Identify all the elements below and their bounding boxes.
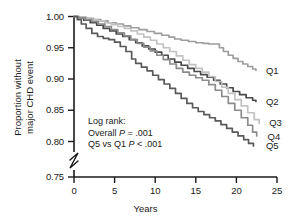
y-axis-tick-label: 1.00 (26, 11, 64, 22)
annotation-line-3: Q5 vs Q1 P < .001 (88, 139, 162, 151)
series-label-q5: Q5 (266, 140, 279, 151)
x-axis-tick-label: 0 (54, 185, 94, 196)
axis-break-marker (70, 153, 78, 168)
x-axis-tick-label: 25 (257, 185, 291, 196)
annotation-line-3-pre: Q5 vs Q1 (88, 139, 129, 149)
annotation-line-2: Overall P = .001 (88, 128, 162, 140)
x-axis-tick-label: 20 (216, 185, 256, 196)
y-axis-ticks (68, 17, 74, 178)
y-axis-title: Proportion without major CHD event (12, 28, 35, 168)
log-rank-annotation: Log rank: Overall P = .001 Q5 vs Q1 P < … (88, 116, 162, 151)
y-axis-title-line2: major CHD event (23, 28, 35, 168)
y-axis-title-line1: Proportion without (12, 28, 24, 168)
chart-figure: 0.750.800.850.900.951.00 0510152025 Q1Q2… (0, 0, 291, 222)
x-axis-tick-label: 15 (176, 185, 216, 196)
series-line-q3 (74, 17, 259, 124)
annotation-line-3-post: < .001 (135, 139, 163, 149)
series-label-q1: Q1 (266, 65, 279, 76)
series-label-q2: Q2 (266, 96, 279, 107)
annotation-line-1: Log rank: (88, 116, 162, 128)
series-label-q3: Q3 (269, 117, 282, 128)
y-axis-tick-label: 0.75 (26, 171, 64, 182)
axes (68, 16, 277, 183)
x-axis-title: Years (0, 203, 291, 214)
annotation-line-2-pre: Overall (88, 128, 119, 138)
x-axis-ticks (74, 177, 277, 183)
x-axis-tick-label: 5 (95, 185, 135, 196)
x-axis-tick-label: 10 (135, 185, 175, 196)
annotation-line-2-post: = .001 (125, 128, 153, 138)
